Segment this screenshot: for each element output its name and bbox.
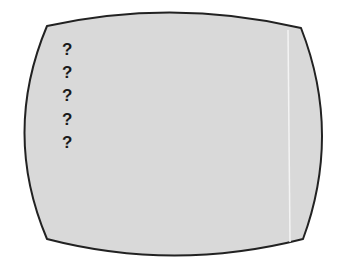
question-mark: ? [62, 84, 72, 107]
question-mark: ? [62, 38, 72, 61]
question-mark: ? [62, 108, 72, 131]
question-mark: ? [62, 61, 72, 84]
question-mark-list: ? ? ? ? ? [62, 38, 72, 154]
crt-screen [0, 0, 343, 261]
question-mark: ? [62, 131, 72, 154]
